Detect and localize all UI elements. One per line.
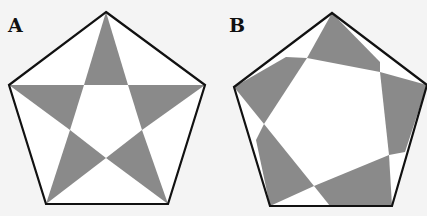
pentagon-b	[234, 13, 427, 206]
pentagon-a	[9, 12, 205, 204]
diagram-canvas	[0, 0, 427, 216]
